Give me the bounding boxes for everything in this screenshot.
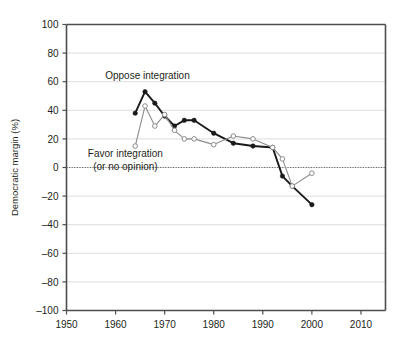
data-point (211, 142, 216, 147)
x-tick-label: 1970 (154, 319, 177, 330)
y-tick-label: –80 (42, 277, 59, 288)
data-point (192, 118, 196, 122)
series-favor-integration (133, 104, 314, 189)
x-axis-ticks: 1950196019701980199020002010 (55, 311, 372, 330)
y-tick-label: 80 (47, 48, 59, 59)
x-tick-label: 1990 (252, 319, 275, 330)
y-tick-label: 60 (47, 76, 59, 87)
chart-figure: 1950196019701980199020002010 10080604020… (0, 0, 403, 364)
data-point (143, 104, 148, 109)
chart-annotations: Oppose integrationFavor integration(or n… (88, 70, 190, 173)
data-point (251, 137, 256, 142)
data-point (270, 145, 275, 150)
y-tick-label: 20 (47, 134, 59, 145)
x-tick-label: 1950 (55, 319, 78, 330)
y-axis-title-text: Democratic margin (%) (9, 119, 20, 216)
line-chart-canvas: 1950196019701980199020002010 10080604020… (0, 0, 403, 364)
data-point (231, 141, 235, 145)
y-tick-label: –20 (42, 191, 59, 202)
y-tick-label: 100 (42, 19, 59, 30)
series-line (135, 106, 312, 186)
data-point (280, 174, 284, 178)
data-point (280, 157, 285, 162)
y-axis-ticks: 100806040200–20–40–60–80–100 (36, 19, 66, 316)
x-tick-label: 2010 (350, 319, 373, 330)
x-tick-label: 1960 (104, 319, 127, 330)
y-tick-label: 0 (53, 162, 59, 173)
y-tick-label: –40 (42, 219, 59, 230)
y-tick-label: –60 (42, 248, 59, 259)
y-axis-title: Democratic margin (%) (9, 119, 20, 216)
data-point (251, 144, 255, 148)
data-point (310, 171, 315, 176)
data-point (153, 101, 157, 105)
data-point (133, 111, 137, 115)
data-point (182, 118, 186, 122)
y-tick-label: –100 (36, 305, 59, 316)
data-point (212, 131, 216, 135)
favor-label-line1: Favor integration (88, 148, 163, 159)
data-point (172, 128, 177, 133)
x-tick-label: 1980 (203, 319, 226, 330)
oppose-label: Oppose integration (105, 70, 190, 81)
data-point (290, 184, 295, 189)
data-point (143, 90, 147, 94)
data-point (192, 137, 197, 142)
x-tick-label: 2000 (301, 319, 324, 330)
y-tick-label: 40 (47, 105, 59, 116)
data-point (153, 124, 158, 129)
data-point (182, 137, 187, 142)
data-point (231, 134, 236, 139)
favor-label-line2: (or no opinion) (93, 161, 157, 172)
data-point (310, 202, 314, 206)
data-point (162, 112, 167, 117)
